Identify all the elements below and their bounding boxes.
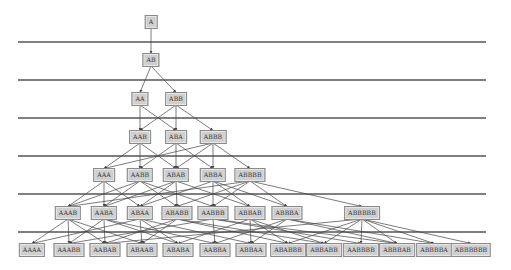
node-aabba: AABBA: [200, 243, 231, 257]
node-a: A: [145, 15, 158, 29]
edge-arrow: [178, 219, 250, 244]
node-abbabb: ABBABB: [306, 243, 342, 257]
node-abbbbb: ABBBBB: [344, 206, 380, 220]
node-abba: ABBA: [200, 168, 226, 182]
node-aabbb: AABBB: [197, 206, 228, 220]
node-ababa: ABABA: [163, 243, 194, 257]
node-aaba: AABA: [91, 206, 117, 220]
edge-arrow: [362, 219, 434, 244]
node-abaab: ABAAB: [127, 243, 158, 257]
lattice-diagram: AABAAABBAABABAABBBAAAAABBABABABBAABBBBAA…: [0, 0, 511, 270]
node-aa: AA: [131, 92, 148, 106]
node-abbbb: ABBBB: [234, 168, 265, 182]
edge-arrow: [104, 219, 105, 244]
node-aaaa: AAAA: [19, 243, 45, 257]
edge-arrow: [250, 219, 324, 244]
node-abbbab: ABBBAB: [379, 243, 415, 257]
edge-arrow: [151, 66, 176, 93]
edge-arrow: [287, 219, 434, 244]
node-aabab: AABAB: [90, 243, 121, 257]
edge-arrow: [140, 66, 151, 93]
edge-arrow: [68, 219, 69, 244]
node-abaa: ABAA: [127, 206, 153, 220]
edges-layer: [0, 0, 511, 270]
node-aaabb: AAABB: [54, 243, 85, 257]
node-abbb: ABBB: [200, 130, 227, 144]
node-ababbb: ABABBB: [270, 243, 306, 257]
node-aba: ABA: [165, 130, 187, 144]
node-abb: ABB: [165, 92, 187, 106]
edge-arrow: [251, 219, 287, 244]
edge-arrow: [361, 219, 362, 244]
edge-arrow: [32, 219, 140, 244]
node-abbbba: ABBBBA: [416, 243, 452, 257]
node-aab: AAB: [129, 130, 151, 144]
node-abbbbbb: ABBBBBB: [451, 243, 491, 257]
node-aaa: AAA: [93, 168, 115, 182]
node-ababb: ABABB: [161, 206, 192, 220]
edge-arrow: [362, 219, 471, 244]
node-aaab: AAAB: [55, 206, 81, 220]
node-aabb: AABB: [127, 168, 153, 182]
node-abbab: ABBAB: [234, 206, 265, 220]
edge-arrow: [32, 219, 68, 244]
edge-arrow: [324, 219, 362, 244]
node-ab: AB: [142, 53, 159, 67]
node-abbaa: ABBAA: [236, 243, 267, 257]
node-aabbbb: AABBBB: [343, 243, 379, 257]
node-abab: ABAB: [163, 168, 189, 182]
node-abbba: ABBBA: [271, 206, 302, 220]
